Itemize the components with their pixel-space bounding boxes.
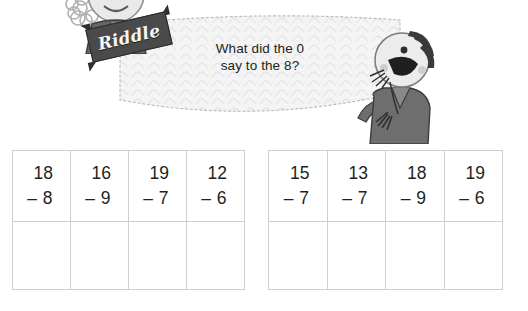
minuend: 18 — [407, 161, 426, 186]
table-column: 18 – 9 — [386, 151, 445, 289]
subtrahend: – 7 — [342, 186, 368, 211]
answer-cell[interactable] — [13, 222, 70, 289]
character-right-laughing — [344, 26, 450, 144]
answer-cell[interactable] — [328, 222, 386, 289]
subtrahend: – 7 — [284, 186, 310, 211]
problem-cell: 19 – 7 — [129, 151, 186, 222]
answer-cell[interactable] — [187, 222, 244, 289]
problem-cell: 16 – 9 — [71, 151, 128, 222]
subtrahend: – 6 — [201, 186, 227, 211]
problem-cell: 19 – 6 — [445, 151, 503, 222]
answer-cell[interactable] — [445, 222, 503, 289]
minuend: 13 — [349, 161, 368, 186]
answer-cell[interactable] — [386, 222, 444, 289]
minuend: 18 — [34, 161, 53, 186]
minuend: 19 — [150, 161, 169, 186]
character-right-illustration — [344, 26, 450, 144]
minuend: 19 — [466, 161, 485, 186]
subtrahend: – 6 — [459, 186, 485, 211]
problem-cell: 12 – 6 — [187, 151, 244, 222]
subtrahend: – 9 — [401, 186, 427, 211]
subtrahend: – 9 — [85, 186, 111, 211]
table-column: 13 – 7 — [328, 151, 387, 289]
table-column: 19 – 7 — [129, 151, 187, 289]
table-column: 16 – 9 — [71, 151, 129, 289]
table-column: 19 – 6 — [445, 151, 503, 289]
answer-cell[interactable] — [71, 222, 128, 289]
problem-cell: 13 – 7 — [328, 151, 386, 222]
minuend: 12 — [208, 161, 227, 186]
table-column: 18 – 8 — [13, 151, 71, 289]
table-column: 12 – 6 — [187, 151, 244, 289]
right-table: 15 – 7 13 – 7 18 – 9 19 – 6 — [268, 150, 503, 290]
answer-cell[interactable] — [269, 222, 327, 289]
worksheet-page: What did the 0 say to the 8? Riddle — [0, 0, 528, 311]
answer-cell[interactable] — [129, 222, 186, 289]
problem-cell: 15 – 7 — [269, 151, 327, 222]
problem-cell: 18 – 9 — [386, 151, 444, 222]
left-table: 18 – 8 16 – 9 19 – 7 12 – 6 — [12, 150, 245, 290]
subtrahend: – 7 — [143, 186, 169, 211]
problem-cell: 18 – 8 — [13, 151, 70, 222]
minuend: 15 — [290, 161, 309, 186]
table-column: 15 – 7 — [269, 151, 328, 289]
minuend: 16 — [92, 161, 111, 186]
subtrahend: – 8 — [27, 186, 53, 211]
